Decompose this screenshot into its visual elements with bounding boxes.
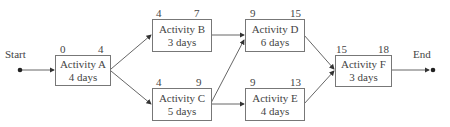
early-start-b: 4 xyxy=(156,8,162,19)
early-finish-c: 9 xyxy=(196,77,202,88)
node-name: Activity C xyxy=(159,92,205,105)
early-finish-f: 18 xyxy=(378,44,389,55)
start-dot xyxy=(18,68,23,73)
early-finish-a: 4 xyxy=(98,44,104,55)
early-start-c: 4 xyxy=(156,77,162,88)
early-start-d: 9 xyxy=(250,8,256,19)
node-name: Activity A xyxy=(60,58,106,71)
edge-a-c xyxy=(111,71,151,104)
node-duration: 4 days xyxy=(69,71,97,84)
node-duration: 6 days xyxy=(261,36,289,49)
early-start-a: 0 xyxy=(60,44,66,55)
early-start-e: 9 xyxy=(250,77,256,88)
edge-c-d xyxy=(211,40,244,103)
node-activity-d: Activity D 6 days xyxy=(245,19,305,52)
early-finish-e: 13 xyxy=(290,77,301,88)
node-activity-a: Activity A 4 days xyxy=(55,55,111,86)
node-name: Activity B xyxy=(159,23,205,36)
early-finish-b: 7 xyxy=(194,8,200,19)
edge-d-f xyxy=(304,35,334,69)
end-dot xyxy=(431,68,436,73)
edge-a-b xyxy=(111,35,151,69)
node-name: Activity E xyxy=(252,92,298,105)
early-finish-d: 15 xyxy=(290,8,301,19)
node-duration: 5 days xyxy=(168,105,196,118)
end-label: End xyxy=(413,48,431,60)
node-duration: 3 days xyxy=(168,36,196,49)
start-label: Start xyxy=(5,48,26,60)
node-activity-e: Activity E 4 days xyxy=(245,88,305,121)
node-duration: 4 days xyxy=(261,105,289,118)
node-name: Activity D xyxy=(252,23,299,36)
node-activity-c: Activity C 5 days xyxy=(152,88,212,121)
node-activity-f: Activity F 3 days xyxy=(335,55,392,87)
node-name: Activity F xyxy=(341,58,386,71)
early-start-f: 15 xyxy=(336,44,347,55)
node-duration: 3 days xyxy=(349,71,377,84)
node-activity-b: Activity B 3 days xyxy=(152,19,212,52)
edge-e-f xyxy=(304,71,334,104)
